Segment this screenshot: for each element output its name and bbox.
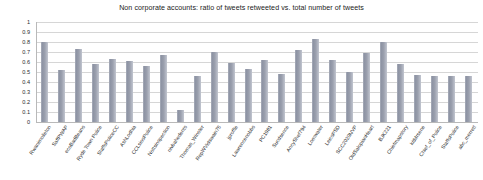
bar bbox=[397, 64, 404, 122]
chart-title: Non corporate accounts: ratio of tweets … bbox=[0, 4, 483, 12]
y-axis-tick-label: 0.5 bbox=[22, 69, 30, 75]
y-axis-tick-label: 0.1 bbox=[22, 109, 30, 115]
bar bbox=[448, 76, 455, 122]
y-axis-tick-label: 0.7 bbox=[22, 49, 30, 55]
bar bbox=[75, 49, 82, 122]
bar bbox=[329, 60, 336, 122]
bar bbox=[228, 63, 235, 122]
x-axis-tick-label: jproffle bbox=[225, 124, 239, 140]
x-axis-tick-label: BJK221 bbox=[377, 124, 392, 142]
bar bbox=[346, 72, 353, 122]
bar bbox=[143, 66, 150, 122]
y-axis-tick-label: 1 bbox=[27, 19, 30, 25]
y-axis-tick-label: 0.6 bbox=[22, 59, 30, 65]
bar bbox=[41, 42, 48, 122]
bar bbox=[58, 70, 65, 122]
bar bbox=[295, 50, 302, 122]
x-axis-tick-label: kitMrsene bbox=[408, 124, 426, 146]
y-axis-tick-label: 0.8 bbox=[22, 39, 30, 45]
bar bbox=[380, 42, 387, 122]
bar bbox=[211, 52, 218, 122]
bar-chart: Non corporate accounts: ratio of tweets … bbox=[0, 0, 483, 180]
bar bbox=[312, 39, 319, 122]
bar bbox=[278, 74, 285, 122]
bar bbox=[245, 69, 252, 122]
bar bbox=[109, 59, 116, 122]
y-axis-labels: 10.90.80.70.60.50.40.30.20.10 bbox=[0, 22, 33, 122]
y-axis-tick-label: 0 bbox=[27, 119, 30, 125]
bar bbox=[177, 110, 184, 122]
bar bbox=[363, 53, 370, 122]
x-axis-tick-label: Rwanimolleton bbox=[28, 124, 52, 156]
y-axis-tick-label: 0.9 bbox=[22, 29, 30, 35]
y-axis-tick-label: 0.4 bbox=[22, 79, 30, 85]
bar bbox=[431, 76, 438, 122]
bar bbox=[465, 76, 472, 122]
bar bbox=[261, 60, 268, 122]
bar bbox=[126, 61, 133, 122]
y-axis-tick-label: 0.3 bbox=[22, 89, 30, 95]
bar bbox=[414, 75, 421, 122]
y-axis-tick-label: 0.2 bbox=[22, 99, 30, 105]
bar bbox=[92, 64, 99, 122]
bar-series bbox=[36, 22, 477, 122]
bar bbox=[194, 76, 201, 122]
x-axis-tick-label: Lomwater bbox=[306, 124, 324, 146]
bar bbox=[160, 55, 167, 122]
x-axis-tick-label: PC1981 bbox=[257, 124, 272, 143]
x-axis-labels: RwanimolletonSaffPWAPecoBadBeansRyde Tow… bbox=[36, 124, 483, 180]
x-axis-tick-label: LeicsPSD bbox=[323, 124, 341, 146]
